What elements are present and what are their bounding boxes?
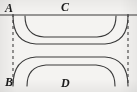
upper-outer-curve [13,16,128,44]
upper-inner-curve [25,16,116,37]
label-b: B [5,76,13,88]
label-d: D [61,77,70,89]
figure-container: A C B D [0,0,137,92]
label-a: A [5,2,13,14]
label-c: C [61,1,69,13]
lower-inner-curve [27,65,115,86]
